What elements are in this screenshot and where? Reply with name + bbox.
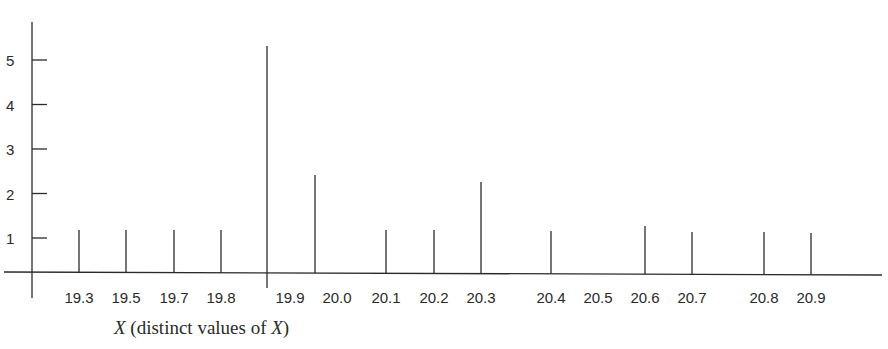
x-tick-label: 19.5 — [111, 289, 140, 306]
x-tick-label: 20.0 — [322, 289, 351, 306]
y-tick-label: 5 — [6, 52, 14, 69]
y-tick-label: 4 — [6, 97, 14, 114]
y-tick-label: 1 — [6, 230, 14, 247]
spikes — [79, 46, 811, 288]
x-tick-label: 20.6 — [630, 289, 659, 306]
frequency-spike-chart: 12345 19.319.519.719.819.920.020.120.220… — [0, 0, 888, 349]
x-axis-title: X (distinct values of X) — [113, 317, 289, 339]
x-tick-label: 20.1 — [371, 289, 400, 306]
x-axis-tick-labels: 19.319.519.719.819.920.020.120.220.320.4… — [64, 289, 825, 306]
y-axis-ticks: 12345 — [6, 52, 47, 247]
x-tick-label: 20.2 — [419, 289, 448, 306]
x-tick-label: 20.3 — [466, 289, 495, 306]
x-tick-label: 20.9 — [796, 289, 825, 306]
x-axis — [4, 272, 882, 275]
x-tick-label: 19.3 — [64, 289, 93, 306]
x-tick-label: 20.4 — [536, 289, 565, 306]
x-tick-label: 19.7 — [159, 289, 188, 306]
x-tick-label: 19.9 — [275, 289, 304, 306]
x-tick-label: 20.8 — [749, 289, 778, 306]
y-tick-label: 2 — [6, 186, 14, 203]
x-tick-label: 20.7 — [677, 289, 706, 306]
x-tick-label: 20.5 — [583, 289, 612, 306]
y-tick-label: 3 — [6, 141, 14, 158]
x-tick-label: 19.8 — [206, 289, 235, 306]
